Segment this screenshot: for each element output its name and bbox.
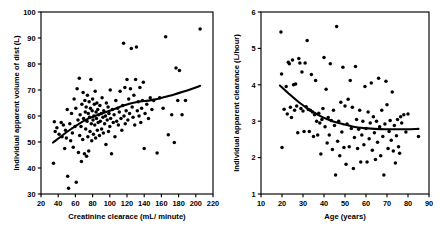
x-tick-label: 200 <box>190 199 202 208</box>
data-point <box>382 173 386 177</box>
data-point <box>392 149 396 153</box>
data-point <box>174 66 178 70</box>
data-point <box>84 105 88 109</box>
y-axis-title: Individual apparent clearance (L/hour) <box>232 34 241 172</box>
right-scatter-plot: 102030405060708090123456Age (years)Indiv… <box>222 0 441 236</box>
data-point <box>280 72 284 76</box>
data-point <box>75 181 79 185</box>
data-point <box>68 122 72 126</box>
data-point <box>365 160 369 164</box>
data-point <box>100 96 104 100</box>
data-point <box>164 35 168 39</box>
data-point <box>321 107 325 111</box>
data-point <box>288 62 292 66</box>
data-point <box>351 106 355 110</box>
data-point <box>148 96 152 100</box>
data-point <box>52 162 56 166</box>
data-point <box>81 138 85 142</box>
data-point <box>170 113 174 117</box>
data-point <box>107 130 111 134</box>
data-point <box>111 121 115 125</box>
data-point <box>62 123 66 127</box>
data-point <box>347 145 351 149</box>
data-point <box>325 141 329 145</box>
data-point <box>342 146 346 150</box>
data-point <box>104 114 108 118</box>
figure-container: 2040608010012014016018020022030405060708… <box>0 0 441 236</box>
y-tick-label: 40 <box>27 164 35 173</box>
plot-frame <box>261 12 429 194</box>
data-point <box>90 109 94 113</box>
data-point <box>135 45 139 49</box>
data-point <box>381 135 385 139</box>
x-tick-label: 30 <box>299 199 307 208</box>
data-point <box>96 108 100 112</box>
data-point <box>131 116 135 120</box>
data-point <box>184 99 188 103</box>
data-point <box>78 113 82 117</box>
data-point-group <box>52 27 202 190</box>
x-tick-label: 180 <box>172 199 184 208</box>
data-point <box>378 125 382 129</box>
data-point <box>343 104 347 108</box>
x-tick-label: 40 <box>54 199 62 208</box>
data-point <box>377 77 381 81</box>
data-point <box>86 93 90 97</box>
data-point <box>289 106 293 110</box>
data-point <box>352 167 356 171</box>
y-tick-label: 60 <box>27 112 35 121</box>
data-point <box>173 141 177 145</box>
data-point <box>128 112 132 116</box>
data-point <box>145 103 149 107</box>
data-point <box>130 47 134 51</box>
data-point <box>349 79 353 83</box>
data-point <box>338 154 342 158</box>
data-point <box>380 109 384 113</box>
data-point <box>324 87 328 91</box>
data-point <box>366 110 370 114</box>
data-point <box>76 118 80 122</box>
data-point <box>105 118 109 122</box>
data-point <box>375 119 379 123</box>
data-point <box>361 119 365 123</box>
y-tick-label: 5 <box>251 44 255 53</box>
data-point <box>87 100 91 104</box>
data-point <box>346 98 350 102</box>
data-point <box>331 148 335 152</box>
data-point <box>358 109 362 113</box>
data-point <box>57 132 61 136</box>
data-point <box>355 118 359 122</box>
data-point <box>367 137 371 141</box>
data-point <box>91 97 95 101</box>
data-point <box>117 123 121 127</box>
data-point <box>386 147 390 151</box>
data-point <box>384 79 388 83</box>
panel-left-volume-of-distribution: 2040608010012014016018020022030405060708… <box>0 0 222 236</box>
data-point <box>93 123 97 127</box>
x-tick-label: 10 <box>257 199 265 208</box>
data-point <box>373 131 377 135</box>
data-point <box>90 122 94 126</box>
data-point <box>371 149 375 153</box>
data-point <box>354 65 358 69</box>
y-tick-label: 100 <box>23 8 35 17</box>
data-point <box>296 131 300 135</box>
data-point <box>66 175 70 179</box>
data-point <box>112 113 116 117</box>
data-point <box>132 93 136 97</box>
data-point <box>120 129 124 133</box>
y-tick-label: 80 <box>27 60 35 69</box>
data-point <box>319 152 323 156</box>
data-point <box>94 136 98 140</box>
data-point <box>84 110 88 114</box>
x-axis-title: Creatinine clearace (mL/ minute) <box>68 212 186 221</box>
data-point <box>383 122 387 126</box>
data-point <box>105 101 109 105</box>
data-point <box>87 112 91 116</box>
data-point <box>147 117 151 121</box>
x-tick-label: 50 <box>341 199 349 208</box>
data-point <box>155 151 159 155</box>
data-point <box>78 134 82 138</box>
data-point <box>334 173 338 177</box>
data-point <box>318 121 322 125</box>
